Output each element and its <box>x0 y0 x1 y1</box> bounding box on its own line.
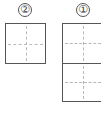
panel-label-2: ② <box>18 3 32 17</box>
grid-panel-1 <box>62 23 101 102</box>
grid-cell <box>6 24 45 63</box>
grid-cell <box>63 24 101 63</box>
guide-line-vertical <box>83 26 84 61</box>
guide-line-vertical <box>26 26 27 61</box>
panel-label-1: ① <box>76 3 90 17</box>
grid-cell <box>63 63 101 102</box>
diagram-canvas: ② ① <box>0 0 101 117</box>
guide-line-vertical <box>83 66 84 100</box>
grid-panel-2 <box>5 23 46 64</box>
